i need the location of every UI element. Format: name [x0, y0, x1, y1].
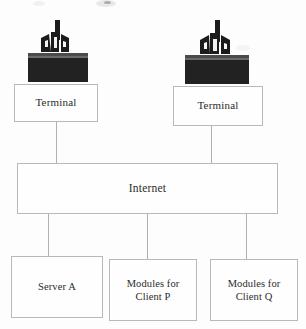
- network-diagram-canvas: Terminal Terminal Internet Server A Modu…: [0, 0, 306, 329]
- connector-internet-to-server-a: [48, 214, 49, 257]
- scan-artifact: [33, 1, 45, 6]
- node-server-a-label: Server A: [38, 280, 76, 293]
- connector-internet-to-client-p: [147, 214, 148, 260]
- node-terminal-left-label: Terminal: [35, 96, 76, 110]
- connector-terminal-right-to-internet: [211, 126, 212, 164]
- computer-terminal-icon-svg: [182, 20, 252, 86]
- node-modules-client-p[interactable]: Modules for Client P: [109, 259, 197, 321]
- computer-terminal-icon: [25, 20, 91, 84]
- node-internet-label: Internet: [129, 181, 166, 195]
- connector-internet-to-client-q: [246, 214, 247, 260]
- node-modules-client-q[interactable]: Modules for Client Q: [210, 259, 298, 321]
- connector-terminal-left-to-internet: [56, 122, 57, 164]
- computer-terminal-icon: [182, 20, 252, 86]
- node-server-a[interactable]: Server A: [11, 256, 103, 318]
- node-modules-client-q-label: Modules for Client Q: [228, 277, 281, 303]
- node-terminal-right[interactable]: Terminal: [173, 86, 263, 126]
- node-internet[interactable]: Internet: [17, 163, 278, 214]
- scan-artifact: [104, 1, 111, 4]
- computer-terminal-icon-svg: [25, 20, 91, 84]
- node-terminal-right-label: Terminal: [197, 99, 238, 113]
- node-modules-client-p-label: Modules for Client P: [127, 277, 180, 303]
- node-terminal-left[interactable]: Terminal: [14, 84, 98, 122]
